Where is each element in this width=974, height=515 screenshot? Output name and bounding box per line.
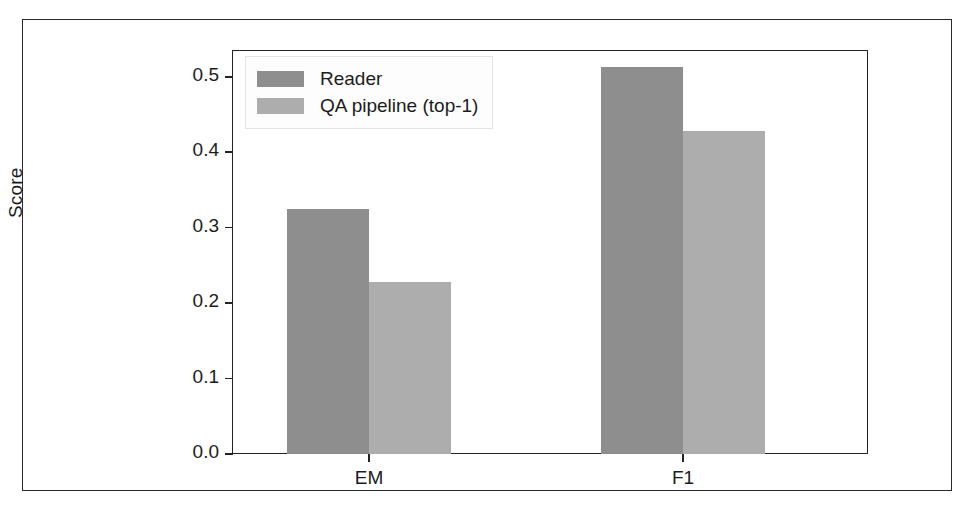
legend-swatch-qa-pipeline bbox=[257, 98, 304, 114]
bar-qa-em bbox=[369, 282, 451, 454]
bar-reader-f1 bbox=[601, 67, 683, 454]
legend-label-reader: Reader bbox=[320, 68, 382, 90]
x-tick-label: F1 bbox=[623, 467, 743, 489]
x-tick-label: EM bbox=[309, 467, 429, 489]
x-tick-mark bbox=[682, 454, 684, 462]
bar-reader-em bbox=[287, 209, 369, 454]
bar-qa-f1 bbox=[683, 131, 765, 454]
legend-item-qa-pipeline: QA pipeline (top-1) bbox=[257, 92, 478, 119]
legend-swatch-reader bbox=[257, 71, 304, 87]
figure-frame: Score 0.0 0.1 0.2 0.3 0.4 0.5 EM F1 bbox=[22, 19, 952, 491]
figure-caption bbox=[22, 500, 952, 515]
x-tick-mark bbox=[368, 454, 370, 462]
bars-layer bbox=[23, 20, 974, 454]
legend-label-qa-pipeline: QA pipeline (top-1) bbox=[320, 95, 478, 117]
legend-item-reader: Reader bbox=[257, 65, 478, 92]
legend: Reader QA pipeline (top-1) bbox=[245, 56, 493, 129]
